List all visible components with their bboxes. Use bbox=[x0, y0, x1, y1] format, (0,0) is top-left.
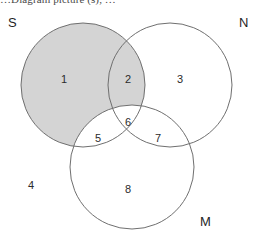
set-label-m: M bbox=[200, 215, 211, 228]
region-label-1: 1 bbox=[57, 74, 71, 85]
set-label-n: N bbox=[239, 16, 248, 29]
region-label-6: 6 bbox=[121, 117, 135, 128]
region-label-8: 8 bbox=[121, 184, 135, 195]
set-label-s: S bbox=[8, 16, 17, 29]
region-label-5: 5 bbox=[91, 133, 105, 144]
region-label-2: 2 bbox=[121, 74, 135, 85]
region-label-4: 4 bbox=[24, 180, 38, 191]
region-label-3: 3 bbox=[173, 74, 187, 85]
venn-diagram-figure: …Diagram picture (s), … S N M 1 2 3 5 bbox=[0, 0, 260, 241]
region-label-7: 7 bbox=[151, 133, 165, 144]
